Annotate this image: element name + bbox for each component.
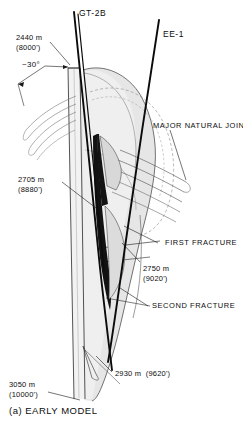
leader-angle-ray	[18, 66, 45, 84]
leader-depth-2440	[50, 42, 70, 65]
leader-angle-vertex	[18, 84, 24, 106]
joint-left-end-arc-2	[29, 146, 34, 155]
leader-angle-ray-arrowhead	[18, 82, 24, 87]
leader-angle-arrowhead	[63, 65, 68, 69]
leader-major-natural-joints	[170, 130, 186, 180]
early-model-reservoir-diagram	[0, 0, 243, 425]
joint-right-tip-arc	[184, 182, 190, 192]
joint-left-end-arc-1	[23, 130, 28, 140]
